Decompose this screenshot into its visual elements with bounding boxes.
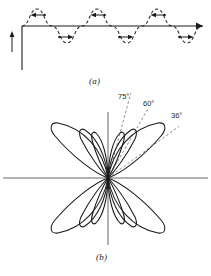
current-arrow-2 [58,35,73,40]
angle-label-75: 75° [118,92,129,101]
antenna-figure: 75° 60° 36° (a) (b) [0,0,211,276]
panel-caption-a: (a) [89,76,100,86]
angle-label-36: 36° [171,111,182,120]
current-arrow-3 [91,13,106,18]
angle-label-60: 60° [143,99,154,108]
current-arrow-4 [118,35,133,40]
current-arrow-6 [178,35,193,40]
feed-source-arrowhead [10,31,15,37]
panel-a-group [10,9,203,70]
figure-canvas [0,0,211,276]
current-arrow-5 [151,13,166,18]
current-arrow-1 [31,13,46,18]
panel-caption-b: (b) [96,252,107,262]
